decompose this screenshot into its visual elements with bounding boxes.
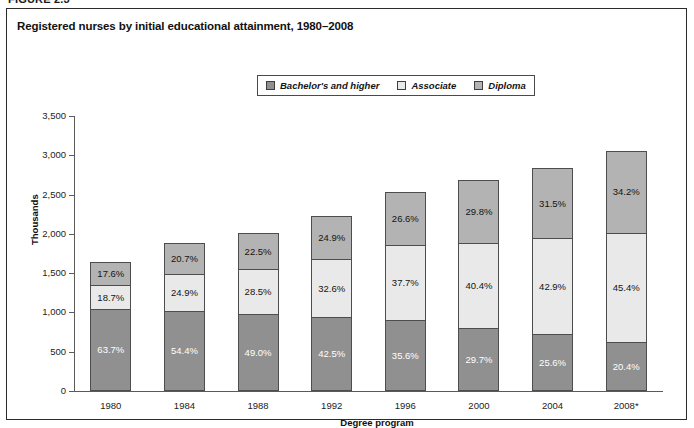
x-tick-label-2008star: 2008* [589, 400, 663, 411]
legend-label: Bachelor's and higher [280, 80, 379, 91]
x-axis-line [74, 391, 663, 392]
bar-segment-value-label: 45.4% [613, 283, 640, 293]
bar-segment-value-label: 49.0% [245, 348, 272, 358]
y-tick-mark [69, 273, 74, 274]
bar-segment-value-label: 54.4% [171, 346, 198, 356]
y-tick-mark [69, 312, 74, 313]
bar-segment-value-label: 42.9% [539, 282, 566, 292]
bar-group-2008star[interactable]: 20.4%45.4%34.2% [606, 151, 647, 391]
bar-segment-value-label: 28.5% [245, 287, 272, 297]
bar-segment-value-label: 26.6% [392, 214, 419, 224]
bar-segment-value-label: 31.5% [539, 199, 566, 209]
bar-segment-value-label: 18.7% [97, 293, 124, 303]
bar-segment-bachelor[interactable]: 42.5% [311, 317, 352, 391]
bar-segment-associate[interactable]: 32.6% [311, 259, 352, 316]
y-tick-mark [69, 391, 74, 392]
bar-segment-value-label: 20.4% [613, 362, 640, 372]
bar-segment-value-label: 34.2% [613, 187, 640, 197]
x-tick-label-1984: 1984 [148, 400, 222, 411]
figure-number-label: FIGURE 2.3 [8, 0, 70, 5]
x-tick-label-2000: 2000 [442, 400, 516, 411]
chart-title: Registered nurses by initial educational… [17, 20, 353, 32]
bar-segment-value-label: 29.8% [465, 207, 492, 217]
y-tick-mark [69, 116, 74, 117]
x-tick-label-1988: 1988 [221, 400, 295, 411]
x-tick-label-1980: 1980 [74, 400, 148, 411]
bar-segment-associate[interactable]: 37.7% [385, 245, 426, 320]
bar-stack: 42.5%32.6%24.9% [311, 216, 352, 391]
x-tick-label-1992: 1992 [295, 400, 369, 411]
legend-label: Diploma [488, 80, 525, 91]
legend-item-associate[interactable]: Associate [397, 80, 456, 91]
y-tick-mark [69, 195, 74, 196]
bar-segment-diploma[interactable]: 20.7% [164, 243, 205, 274]
bar-segment-bachelor[interactable]: 29.7% [458, 328, 499, 391]
bar-group-1992[interactable]: 42.5%32.6%24.9% [311, 216, 352, 391]
bar-stack: 25.6%42.9%31.5% [532, 168, 573, 391]
legend-swatch-bachelor-icon [266, 81, 275, 90]
bar-segment-value-label: 25.6% [539, 358, 566, 368]
bar-stack: 54.4%24.9%20.7% [164, 243, 205, 391]
bar-segment-bachelor[interactable]: 49.0% [238, 314, 279, 391]
figure-frame: Registered nurses by initial educational… [6, 8, 687, 420]
bar-group-1988[interactable]: 49.0%28.5%22.5% [238, 233, 279, 391]
x-tick-label-1996: 1996 [369, 400, 443, 411]
y-tick-label: 3,500 [42, 110, 66, 121]
y-tick-label: 0 [61, 385, 66, 396]
bar-segment-diploma[interactable]: 24.9% [311, 216, 352, 260]
y-tick-mark [69, 352, 74, 353]
bar-group-1984[interactable]: 54.4%24.9%20.7% [164, 243, 205, 391]
plot-area: 05001,0001,5002,0002,5003,0003,50063.7%1… [74, 116, 663, 391]
bar-segment-associate[interactable]: 28.5% [238, 269, 279, 314]
bar-segment-diploma[interactable]: 29.8% [458, 180, 499, 243]
bar-segment-bachelor[interactable]: 54.4% [164, 311, 205, 391]
bar-stack: 35.6%37.7%26.6% [385, 191, 426, 391]
legend-swatch-associate-icon [397, 81, 406, 90]
bar-segment-value-label: 24.9% [318, 233, 345, 243]
bar-segment-diploma[interactable]: 31.5% [532, 168, 573, 238]
bar-segment-diploma[interactable]: 26.6% [385, 192, 426, 245]
bar-group-1980[interactable]: 63.7%18.7%17.6% [90, 262, 131, 391]
bar-segment-associate[interactable]: 18.7% [90, 285, 131, 309]
y-tick-mark [69, 155, 74, 156]
bar-segment-bachelor[interactable]: 35.6% [385, 320, 426, 391]
bar-segment-value-label: 42.5% [318, 349, 345, 359]
bar-segment-value-label: 40.4% [465, 281, 492, 291]
y-tick-label: 1,000 [42, 306, 66, 317]
y-tick-label: 3,000 [42, 149, 66, 160]
bar-segment-diploma[interactable]: 34.2% [606, 151, 647, 233]
bar-segment-value-label: 17.6% [97, 269, 124, 279]
y-tick-label: 500 [50, 346, 66, 357]
bar-stack: 20.4%45.4%34.2% [606, 151, 647, 391]
bar-stack: 63.7%18.7%17.6% [90, 262, 131, 391]
legend-item-diploma[interactable]: Diploma [474, 80, 525, 91]
bar-stack: 29.7%40.4%29.8% [458, 180, 499, 391]
bar-segment-value-label: 32.6% [318, 284, 345, 294]
x-axis-title: Degree program [7, 417, 694, 428]
y-axis-title: Thousands [29, 194, 40, 245]
x-axis-title-text: Degree program [340, 417, 413, 428]
bar-group-2000[interactable]: 29.7%40.4%29.8% [458, 180, 499, 391]
bar-segment-value-label: 29.7% [465, 355, 492, 365]
bar-segment-associate[interactable]: 45.4% [606, 233, 647, 342]
y-tick-mark [69, 234, 74, 235]
bar-stack: 49.0%28.5%22.5% [238, 233, 279, 391]
bar-group-1996[interactable]: 35.6%37.7%26.6% [385, 191, 426, 391]
legend-item-bachelor[interactable]: Bachelor's and higher [266, 80, 379, 91]
y-axis-line [74, 116, 75, 391]
bar-segment-value-label: 22.5% [245, 247, 272, 257]
y-tick-label: 2,500 [42, 189, 66, 200]
legend-swatch-diploma-icon [474, 81, 483, 90]
bar-segment-associate[interactable]: 42.9% [532, 238, 573, 334]
bar-segment-bachelor[interactable]: 63.7% [90, 309, 131, 391]
bar-segment-associate[interactable]: 24.9% [164, 274, 205, 311]
legend-label: Associate [411, 80, 456, 91]
bar-segment-associate[interactable]: 40.4% [458, 243, 499, 328]
bar-segment-diploma[interactable]: 22.5% [238, 233, 279, 269]
y-tick-label: 2,000 [42, 228, 66, 239]
bar-segment-value-label: 24.9% [171, 288, 198, 298]
bar-group-2004[interactable]: 25.6%42.9%31.5% [532, 168, 573, 391]
bar-segment-bachelor[interactable]: 20.4% [606, 342, 647, 391]
bar-segment-diploma[interactable]: 17.6% [90, 262, 131, 285]
bar-segment-bachelor[interactable]: 25.6% [532, 334, 573, 391]
